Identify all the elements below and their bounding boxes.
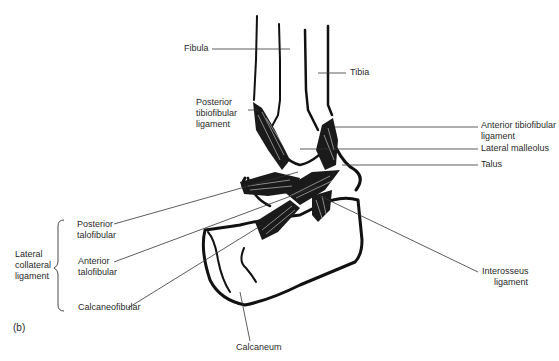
anterior-tibiofibular-ligament	[316, 118, 338, 170]
posterior-tibiofibular-ligament	[253, 102, 290, 170]
label-anterior-talofibular: Anterior talofibular	[78, 256, 117, 278]
label-tibia: Tibia	[350, 67, 369, 78]
label-posterior-tibiofibular: Posterior tibiofibular ligament	[196, 97, 246, 130]
tibia-outline	[305, 26, 332, 130]
label-talus: Talus	[481, 159, 502, 170]
label-fibula: Fibula	[184, 43, 209, 54]
lateral-collateral-brace	[54, 220, 64, 311]
label-lateral-malleolus: Lateral malleolus	[481, 143, 549, 154]
label-calcaneum: Calcaneum	[236, 342, 282, 353]
label-interosseus-ligament: Interosseus ligament	[482, 266, 528, 288]
label-lateral-collateral-ligament: Lateral collateral ligament	[15, 249, 51, 282]
calcaneofibular-ligament	[255, 200, 300, 240]
label-posterior-talofibular: Posterior talofibular	[77, 219, 116, 241]
label-calcaneofibular: Calcaneofibular	[78, 302, 141, 313]
panel-label: (b)	[13, 322, 25, 333]
label-anterior-tibiofibular: Anterior tibiofibular ligament	[481, 120, 556, 142]
